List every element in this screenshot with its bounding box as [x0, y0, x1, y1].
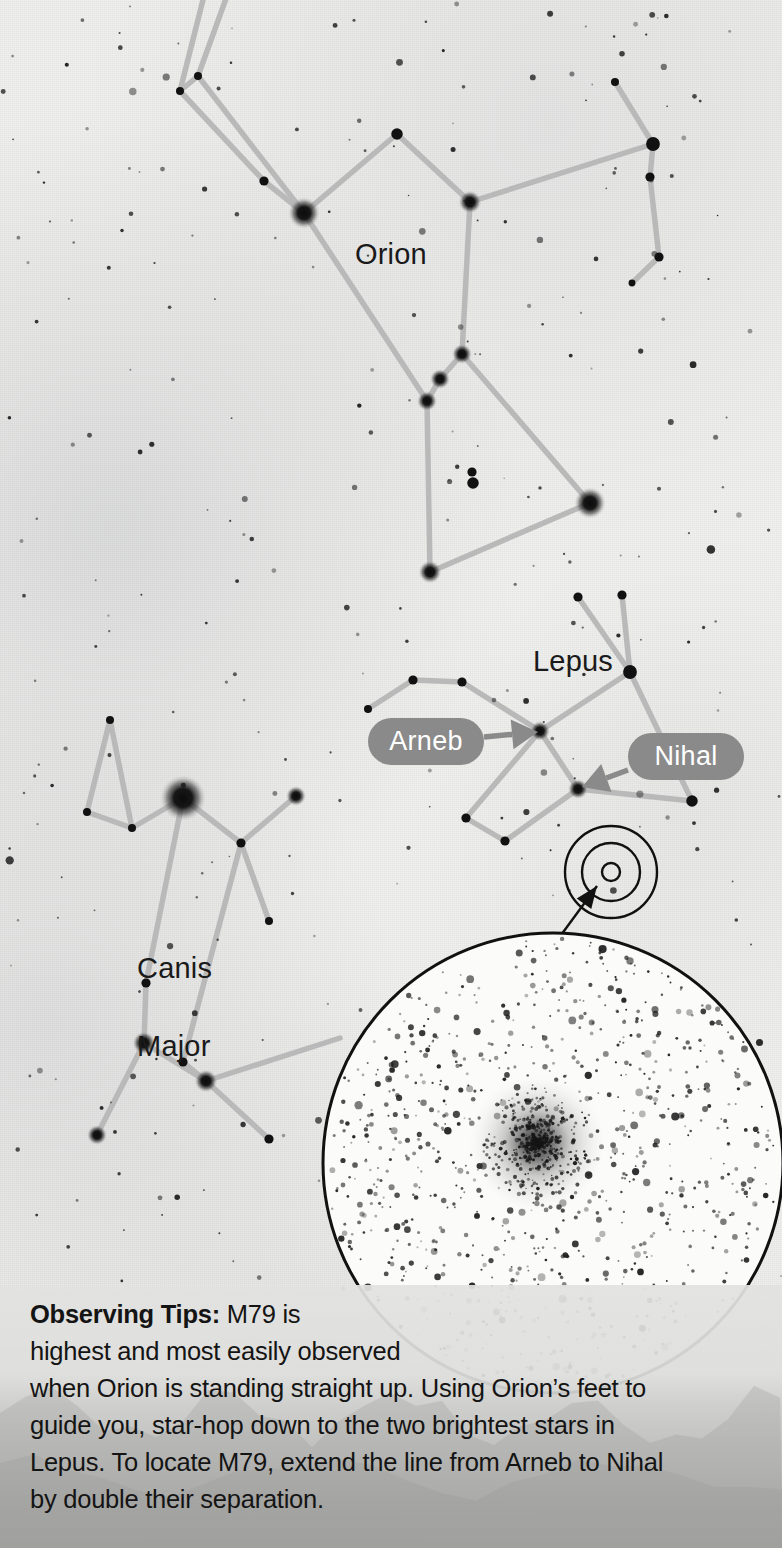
arrow-shaft — [606, 770, 628, 778]
caption-heading: Observing Tips: — [30, 1300, 220, 1328]
caption-line-5: Lepus. To locate M79, extend the line fr… — [30, 1444, 768, 1481]
observing-tips-caption: Observing Tips: M79 is highest and most … — [30, 1296, 768, 1518]
caption-line-6: by double their separation. — [30, 1481, 768, 1518]
arrow-nihal — [582, 764, 628, 792]
caption-line-3: when Orion is standing straight up. Usin… — [30, 1370, 768, 1407]
arrow-arneb — [484, 719, 538, 749]
arrow-head — [511, 719, 538, 749]
arrow-shaft — [484, 734, 512, 737]
caption-line-2: highest and most easily observed — [30, 1333, 768, 1370]
caption-line-4: guide you, star-hop down to the two brig… — [30, 1407, 768, 1444]
caption-line-1: M79 is — [227, 1300, 301, 1328]
star-chart-page: Orion Lepus Canis Major Arneb Nihal Obse… — [0, 0, 782, 1548]
